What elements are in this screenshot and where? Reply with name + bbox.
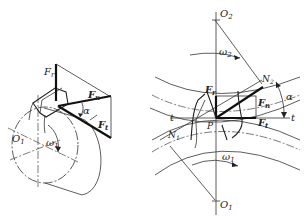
right-mesh-view: O2 O1 ω2 ω1 N2 N1 Fr Fn Ft α t t P (150, 8, 300, 215)
right-fr-label: Fr (204, 84, 217, 97)
right-ft-label: Ft (257, 117, 269, 130)
t-right-label: t (291, 112, 296, 123)
n2-label: N2 (261, 74, 274, 85)
pitch-point-label: P (206, 121, 214, 131)
o2-label: O2 (220, 8, 233, 21)
tooth-profile-upper (191, 94, 205, 140)
left-omega-label: ω1 (46, 137, 59, 150)
right-fn-label: Fn (257, 97, 270, 110)
left-fr-label: Fr (43, 66, 55, 79)
o1-label: O1 (220, 199, 233, 212)
gear-force-diagram: Fr Fn Ft α ω1 O1 (0, 0, 305, 219)
left-alpha-label: α (83, 105, 90, 116)
n1-label: N1 (167, 130, 180, 141)
right-alpha-label: α (286, 91, 293, 102)
left-3d-view: Fr Fn Ft α ω1 O1 (8, 64, 111, 195)
omega2-label: ω2 (219, 46, 232, 59)
